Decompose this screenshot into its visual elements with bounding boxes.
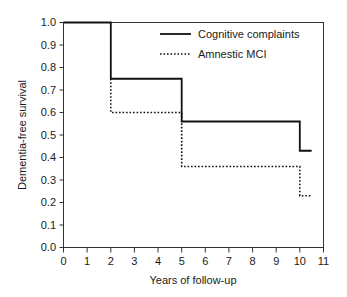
y-tick-label: 0.5 <box>41 129 56 141</box>
x-tick-label: 7 <box>226 255 232 267</box>
x-tick-label: 0 <box>60 255 66 267</box>
y-axis-tick-labels: 0.0 0.1 0.2 0.3 0.4 0.5 0.6 0.7 0.8 0.9 … <box>41 16 56 253</box>
y-tick-label: 1.0 <box>41 16 56 28</box>
x-axis-tick-labels: 0 1 2 3 4 5 6 7 8 9 10 11 <box>60 255 329 267</box>
y-tick-label: 0.8 <box>41 61 56 73</box>
y-tick-label: 0.4 <box>41 151 56 163</box>
y-tick-label: 0.9 <box>41 39 56 51</box>
x-tick-label: 5 <box>179 255 185 267</box>
series-line-amnestic-mci <box>111 79 312 196</box>
x-tick-label: 2 <box>108 255 114 267</box>
legend-label-cognitive-complaints: Cognitive complaints <box>198 28 300 40</box>
x-tick-label: 6 <box>202 255 208 267</box>
y-axis-title: Dementia-free survival <box>16 80 28 190</box>
y-tick-label: 0.6 <box>41 106 56 118</box>
y-axis-ticks <box>60 23 64 248</box>
x-tick-label: 3 <box>131 255 137 267</box>
x-tick-label: 4 <box>155 255 161 267</box>
x-tick-label: 10 <box>294 255 306 267</box>
legend-label-amnestic-mci: Amnestic MCI <box>198 48 266 60</box>
y-tick-label: 0.2 <box>41 196 56 208</box>
y-tick-label: 0.1 <box>41 219 56 231</box>
survival-plot-svg: 0.0 0.1 0.2 0.3 0.4 0.5 0.6 0.7 0.8 0.9 … <box>0 0 347 297</box>
y-tick-label: 0.0 <box>41 241 56 253</box>
x-tick-label: 8 <box>250 255 256 267</box>
kaplan-meier-figure: 0.0 0.1 0.2 0.3 0.4 0.5 0.6 0.7 0.8 0.9 … <box>0 0 347 297</box>
legend: Cognitive complaints Amnestic MCI <box>160 28 300 60</box>
x-tick-label: 11 <box>318 255 329 267</box>
y-tick-label: 0.3 <box>41 174 56 186</box>
plot-frame <box>64 23 324 248</box>
x-tick-label: 9 <box>273 255 279 267</box>
series-line-cognitive-complaints <box>64 23 312 151</box>
y-tick-label: 0.7 <box>41 84 56 96</box>
x-axis-ticks <box>64 248 324 253</box>
x-tick-label: 1 <box>84 255 90 267</box>
x-axis-title: Years of follow-up <box>149 274 236 286</box>
